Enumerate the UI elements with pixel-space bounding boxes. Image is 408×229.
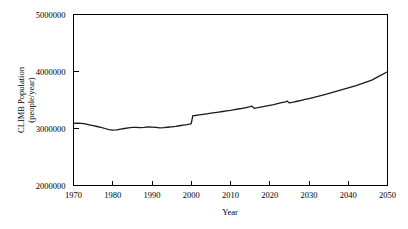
x-tick-label: 1970: [65, 190, 82, 200]
x-tick-label: 1990: [144, 190, 161, 200]
plot-frame: [74, 15, 388, 186]
y-tick-label: 5000000: [36, 10, 66, 20]
x-axis-tick-labels: 197019801990200020102020203020402050: [65, 190, 396, 200]
y-axis-title-line2: (people/year): [26, 77, 36, 122]
x-axis-ticks: [74, 181, 388, 186]
x-tick-label: 2030: [301, 190, 318, 200]
data-series-line: [74, 72, 388, 130]
x-tick-label: 2000: [183, 190, 200, 200]
x-axis-title: Year: [222, 207, 238, 217]
y-tick-label: 3000000: [36, 124, 66, 134]
y-tick-label: 2000000: [36, 181, 66, 191]
x-tick-label: 2020: [261, 190, 278, 200]
y-tick-label: 4000000: [36, 67, 66, 77]
x-tick-label: 2040: [340, 190, 357, 200]
y-axis-tick-labels: 2000000300000040000005000000: [36, 10, 66, 191]
chart-figure: 2000000300000040000005000000 19701980199…: [0, 0, 408, 229]
x-tick-label: 1980: [104, 190, 121, 200]
y-axis-ticks: [74, 15, 79, 186]
population-line-chart: 2000000300000040000005000000 19701980199…: [0, 0, 408, 229]
y-axis-title-line1: CLIMB Population: [16, 66, 26, 133]
x-tick-label: 2010: [222, 190, 239, 200]
x-tick-label: 2050: [379, 190, 396, 200]
